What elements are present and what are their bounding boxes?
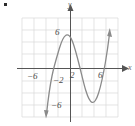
x-tick-label-neg6: −6: [27, 72, 38, 81]
y-tick-label-neg6: −6: [51, 101, 62, 110]
y-tick-label-6: 6: [55, 28, 60, 37]
graph-figure: −6 2 6 6 −2 −6 x y: [0, 0, 135, 126]
coordinate-plane: [0, 0, 135, 126]
x-tick-label-2: 2: [70, 71, 75, 80]
y-tick-label-neg2: −2: [53, 76, 64, 85]
x-axis-label: x: [128, 64, 132, 72]
curve-arrowhead-top-right: [107, 28, 112, 37]
x-tick-label-6: 6: [98, 71, 103, 80]
y-axis-label: y: [68, 1, 72, 9]
